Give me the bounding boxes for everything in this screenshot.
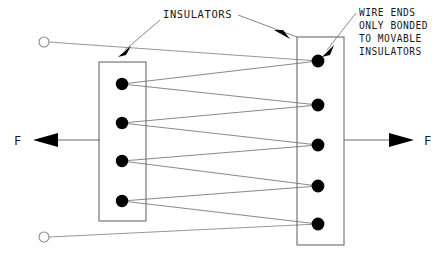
bond-dot-left-2 <box>116 117 128 129</box>
bond-dot-right-3 <box>312 139 325 152</box>
bond-dot-left-1 <box>116 78 128 90</box>
bond-dot-right-5 <box>312 218 325 231</box>
note-line-1: WIRE ENDS <box>359 7 415 18</box>
force-arrow-right-head <box>389 133 414 147</box>
wire-segment-5 <box>122 145 318 161</box>
bond-dot-right-4 <box>312 180 325 193</box>
bond-dot-right-1 <box>312 55 325 68</box>
note-line-4: INSULATORS <box>359 46 422 57</box>
diagram-canvas: F F INSULATORS WIRE ENDS ONLY BONDED TO … <box>0 0 447 260</box>
force-arrow-left-head <box>33 133 58 147</box>
wire-segment-3 <box>122 105 318 123</box>
insulators-leader-right-head <box>274 30 290 39</box>
note-leader-line <box>327 13 356 50</box>
note-leader-head <box>322 45 334 57</box>
wire-segment-2 <box>122 84 318 105</box>
wire-segment-6 <box>122 161 318 186</box>
insulators-label: INSULATORS <box>163 8 232 20</box>
lead-wire-top <box>49 42 318 61</box>
lead-wire-bottom <box>49 224 318 237</box>
wire-insulator-diagram: F F INSULATORS WIRE ENDS ONLY BONDED TO … <box>0 0 447 260</box>
force-label-left: F <box>14 134 21 148</box>
insulators-leader-left-line <box>125 20 160 50</box>
force-label-right: F <box>424 134 431 148</box>
wire-segment-7 <box>122 186 318 201</box>
bond-dot-left-3 <box>116 155 128 167</box>
bond-dot-right-2 <box>312 99 325 112</box>
top-terminal-icon <box>39 37 49 47</box>
wire-segment-1 <box>122 61 318 84</box>
insulators-leader-right-line <box>238 15 297 37</box>
wire-segment-8 <box>122 201 318 224</box>
bottom-terminal-icon <box>39 232 49 242</box>
note-line-2: ONLY BONDED <box>359 20 428 31</box>
wire-segment-4 <box>122 123 318 145</box>
bond-dot-left-4 <box>116 195 128 207</box>
note-line-3: TO MOVABLE <box>359 33 422 44</box>
